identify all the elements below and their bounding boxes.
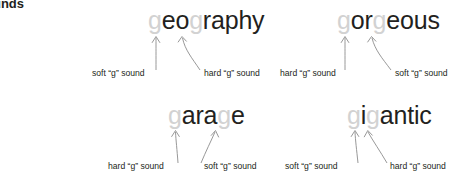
arrow-line-right	[372, 38, 391, 70]
arrow-line-left	[355, 132, 358, 163]
intro-paragraph: t include nd. There glish that	[0, 14, 74, 54]
arrow-head-right	[364, 131, 372, 137]
arrow-line-right	[201, 132, 215, 163]
example-garage: garage hard “g” sound soft “g” sound	[168, 103, 245, 128]
label-soft-g: soft “g” sound	[92, 68, 145, 78]
arrow-line-right	[183, 38, 201, 70]
label-hard-g: hard “g” sound	[280, 68, 336, 78]
intro-line: t include	[0, 14, 74, 27]
label-soft-g: soft “g” sound	[204, 161, 257, 171]
example-geography: geography soft “g” sound hard “g” sound	[148, 8, 264, 33]
arrow-head-right	[211, 131, 218, 138]
label-soft-g: soft “g” sound	[395, 68, 448, 78]
arrow-head-right	[178, 37, 186, 43]
arrow-line-right	[368, 132, 387, 163]
intro-line: glish that	[0, 40, 74, 53]
example-gigantic: gigantic soft “g” sound hard “g” sound	[347, 103, 432, 128]
label-soft-g: soft “g” sound	[285, 161, 338, 171]
arrow-line-left	[176, 132, 179, 163]
label-hard-g: hard “g” sound	[204, 68, 260, 78]
example-gorgeous: gorgeous hard “g” sound soft “g” sound	[337, 8, 440, 33]
arrow-head-right	[368, 37, 376, 43]
intro-line: nd. There	[0, 27, 74, 40]
intro-text-column: “g” sounds t include nd. There glish tha…	[0, 0, 74, 54]
page-title: “g” sounds	[0, 0, 74, 11]
label-hard-g: hard “g” sound	[108, 161, 164, 171]
label-hard-g: hard “g” sound	[390, 161, 446, 171]
